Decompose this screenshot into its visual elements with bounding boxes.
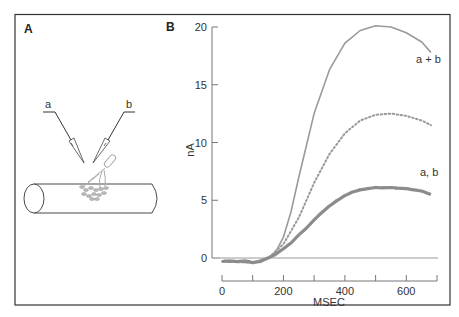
series-a-b (222, 188, 431, 263)
x-axis-title: MSEC (313, 296, 345, 308)
electrode-b-label: b (126, 98, 132, 110)
series-label-a-b: a, b (420, 166, 438, 178)
panel-a: A a b (24, 22, 157, 213)
y-axis (212, 27, 220, 258)
series-a-b-noise (222, 187, 431, 264)
nerve-terminal-icon (80, 154, 117, 201)
svg-text:0: 0 (219, 285, 225, 297)
y-tick-labels: 20 15 10 5 0 (195, 21, 207, 264)
figure-canvas: A a b (0, 0, 459, 317)
svg-text:10: 10 (195, 137, 207, 149)
panel-b: B 20 15 10 5 0 nA (166, 20, 441, 308)
panel-b-label: B (166, 20, 175, 34)
svg-text:200: 200 (274, 285, 292, 297)
svg-text:600: 600 (397, 285, 415, 297)
electrode-a-label: a (45, 98, 52, 110)
x-axis (222, 275, 437, 281)
series-label-a-plus-b: a + b (416, 53, 441, 65)
svg-text:0: 0 (201, 252, 207, 264)
panel-a-label: A (24, 22, 33, 36)
svg-text:15: 15 (195, 79, 207, 91)
y-axis-title: nA (184, 143, 196, 157)
svg-text:5: 5 (201, 194, 207, 206)
electrode-a-icon (43, 112, 84, 163)
series-a-plus-b (222, 26, 431, 263)
svg-text:20: 20 (195, 21, 207, 33)
